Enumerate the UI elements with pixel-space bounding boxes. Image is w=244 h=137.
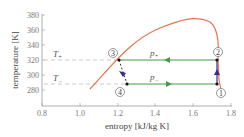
state-point-4 — [125, 82, 128, 85]
y-tick-360: 360 — [27, 26, 39, 35]
y-axis-label: temperature [K] — [10, 31, 20, 89]
svg-text:1: 1 — [219, 89, 223, 98]
state-point-2 — [215, 58, 218, 61]
y-tick-340: 340 — [27, 41, 39, 50]
p-plus-label: p+ — [149, 48, 159, 59]
x-axis-label: entropy [kJ/kg K] — [105, 121, 169, 131]
y-tick-380: 380 — [27, 11, 39, 20]
label-2: 2 — [214, 48, 223, 58]
y-tick-280: 280 — [27, 86, 39, 95]
y-ticks — [42, 15, 45, 90]
state-point-1 — [215, 82, 218, 85]
svg-text:3: 3 — [111, 49, 115, 58]
label-3: 3 — [109, 49, 118, 59]
svg-text:4: 4 — [118, 88, 122, 97]
ts-diagram: 380 360 340 320 300 280 0.8 1.0 1.2 1.4 … — [0, 0, 244, 137]
x-tick-1.6: 1.6 — [188, 109, 198, 118]
y-tick-320: 320 — [27, 56, 39, 65]
t-plus-label: T+ — [53, 49, 62, 60]
p-minus-arrow-icon — [166, 81, 172, 87]
y-tick-300: 300 — [27, 71, 39, 80]
label-4: 4 — [116, 88, 125, 98]
x-tick-1.4: 1.4 — [150, 109, 160, 118]
x-tick-1.2: 1.2 — [113, 109, 123, 118]
x-tick-1.0: 1.0 — [75, 109, 85, 118]
p-minus-label: p− — [149, 72, 159, 83]
x-tick-1.8: 1.8 — [226, 109, 236, 118]
x-ticks — [42, 103, 231, 106]
label-1: 1 — [217, 89, 226, 99]
p-plus-arrow-icon — [164, 57, 170, 63]
x-tick-0.8: 0.8 — [37, 109, 47, 118]
state-point-3 — [117, 58, 120, 61]
t-minus-label: T− — [53, 73, 62, 84]
svg-text:2: 2 — [216, 48, 220, 57]
